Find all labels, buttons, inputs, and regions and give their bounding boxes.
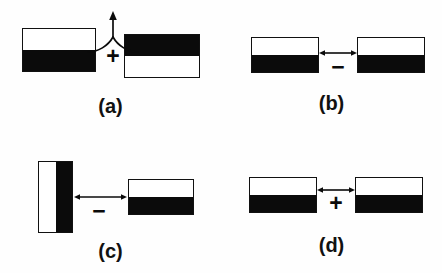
panel-d-right-block-black-half xyxy=(356,195,422,212)
panel-d-operator: + xyxy=(327,192,345,215)
panel-d-arrowhead-left xyxy=(317,187,323,193)
panel-c-arrowhead-right xyxy=(121,194,127,200)
panel-d-left-block-black-half xyxy=(250,195,316,212)
panel-d-arrowhead-right xyxy=(349,187,355,193)
panel-c-left-block xyxy=(38,161,73,233)
figure-root: + (a) − (b) xyxy=(0,0,442,273)
panel-b-left-block xyxy=(251,37,319,73)
panel-c-arrowhead-left xyxy=(74,194,80,200)
panel-c-right-block xyxy=(128,179,194,215)
panel-c: − (c) xyxy=(0,137,221,273)
panel-b-left-block-black-half xyxy=(252,55,318,72)
panel-c-operator: − xyxy=(90,200,108,223)
panel-c-caption: (c) xyxy=(0,241,221,261)
panel-a-left-block xyxy=(22,28,96,72)
panel-b-right-block xyxy=(357,37,425,73)
panel-c-right-block-black-half xyxy=(129,197,193,214)
panel-b-caption: (b) xyxy=(221,93,442,113)
panel-a-operator: + xyxy=(104,45,122,68)
panel-d: + (d) xyxy=(221,137,442,273)
panel-d-caption: (d) xyxy=(221,235,442,255)
panel-a-left-block-black-half xyxy=(23,50,95,71)
panel-a-caption: (a) xyxy=(0,96,221,116)
panel-b-operator: − xyxy=(329,56,347,79)
panel-a-arrowhead-up xyxy=(109,11,117,20)
panel-c-left-block-black-half xyxy=(56,162,73,232)
panel-b: − (b) xyxy=(221,0,442,137)
panel-d-right-block xyxy=(355,177,423,213)
panel-b-arrowhead-left xyxy=(319,50,325,56)
panel-d-left-block xyxy=(249,177,317,213)
panel-b-right-block-black-half xyxy=(358,55,424,72)
panel-a: + (a) xyxy=(0,0,221,137)
panel-b-arrowhead-right xyxy=(351,50,357,56)
